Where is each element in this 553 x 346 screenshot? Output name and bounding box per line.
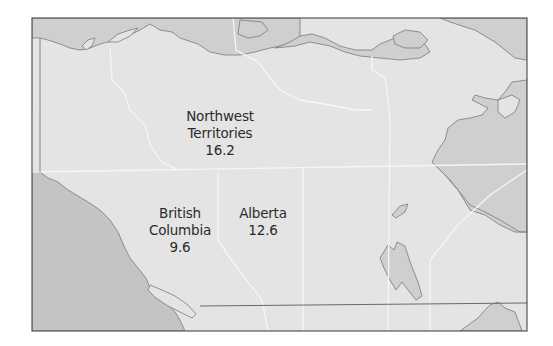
region-value: 12.6	[228, 222, 298, 239]
region-value: 16.2	[160, 142, 280, 159]
region-name-line: Columbia	[140, 222, 220, 239]
map-canvas	[0, 0, 553, 346]
region-name-line: British	[140, 205, 220, 222]
region-label-british-columbia: British Columbia 9.6	[140, 205, 220, 256]
region-name-line: Territories	[160, 125, 280, 142]
region-name-line: Northwest	[160, 108, 280, 125]
region-label-alberta: Alberta 12.6	[228, 205, 298, 239]
region-name-line: Alberta	[228, 205, 298, 222]
region-label-northwest-territories: Northwest Territories 16.2	[160, 108, 280, 159]
region-value: 9.6	[140, 239, 220, 256]
